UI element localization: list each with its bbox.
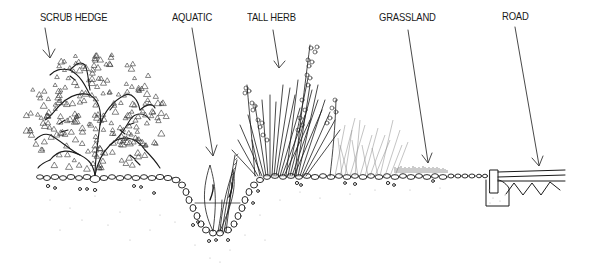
grassland-tall-grass: [335, 118, 408, 176]
scrub-hedge: [23, 53, 169, 175]
label-aquatic: AQUATIC: [172, 12, 212, 23]
tall-herb: [232, 45, 340, 176]
aquatic-arrow: [192, 28, 217, 156]
tall-herb-flowers: [243, 45, 338, 142]
diagram-artwork: [0, 0, 593, 267]
habitat-cross-section-diagram: SCRUB HEDGE AQUATIC TALL HERB GRASSLAND …: [0, 0, 593, 267]
label-road: ROAD: [502, 11, 529, 22]
tall-herb-arrow: [273, 30, 285, 68]
label-arrows: [43, 27, 543, 166]
grassland-short-grass: [395, 166, 447, 173]
label-scrub-hedge: SCRUB HEDGE: [40, 12, 107, 23]
soil-speckle: [49, 187, 440, 262]
label-tall-herb: TALL HERB: [247, 12, 296, 23]
grassland-arrow: [408, 30, 432, 163]
label-grassland: GRASSLAND: [379, 12, 436, 23]
scrub-hedge-arrow: [43, 28, 55, 58]
ground-stones-right: [264, 174, 488, 187]
road-arrow: [515, 27, 543, 166]
road: [486, 170, 565, 206]
aquatic-plants: [204, 154, 238, 232]
scrub-leaves: [23, 53, 169, 172]
ground-stones-left: [37, 174, 186, 194]
